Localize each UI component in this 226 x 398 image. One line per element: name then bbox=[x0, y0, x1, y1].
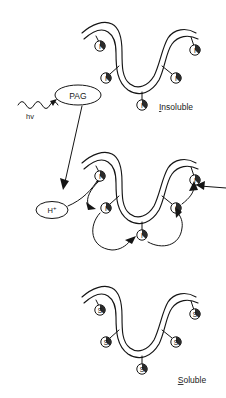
group-symbol: I bbox=[141, 102, 143, 109]
cascade-arrowhead-icon bbox=[86, 202, 96, 210]
photon-label: hv bbox=[26, 112, 34, 121]
group-symbol: I bbox=[105, 205, 107, 212]
group-symbol: I bbox=[194, 47, 196, 54]
group-symbol: I bbox=[175, 75, 177, 82]
soluble-group: S bbox=[101, 337, 111, 347]
pendant-stem bbox=[162, 330, 172, 338]
acid-to-chain-line bbox=[68, 178, 99, 206]
photon-arrow bbox=[18, 99, 58, 109]
pendant-stem bbox=[162, 196, 172, 204]
group-symbol: S bbox=[193, 311, 198, 318]
group-symbol: S bbox=[98, 307, 103, 314]
protecting-group-insoluble: I bbox=[137, 100, 147, 110]
protecting-group-reacting: I bbox=[101, 203, 111, 213]
protecting-group-insoluble: I bbox=[101, 73, 111, 83]
protecting-group-insoluble: I bbox=[171, 73, 181, 83]
polymer-backbone-inner bbox=[84, 30, 198, 93]
mechanism-diagram: I I I I I I bbox=[0, 0, 226, 398]
group-symbol: S bbox=[140, 366, 145, 373]
group-symbol: I bbox=[99, 43, 101, 50]
soluble-group: S bbox=[190, 309, 200, 319]
state-label-soluble: Soluble bbox=[178, 375, 207, 385]
state-label-rest: oluble bbox=[183, 375, 206, 385]
soluble-group: S bbox=[171, 337, 181, 347]
group-symbol: I bbox=[141, 232, 143, 239]
cascade-arrow-1 bbox=[87, 182, 98, 204]
group-symbol: I bbox=[105, 75, 107, 82]
polymer-backbone-inner bbox=[84, 294, 198, 357]
chain-soluble: S S S S S bbox=[82, 286, 200, 374]
group-symbol: S bbox=[104, 339, 109, 346]
group-symbol: S bbox=[174, 339, 179, 346]
catalytic-cascade-arrows bbox=[86, 181, 226, 250]
state-label-insoluble: Insoluble bbox=[159, 102, 193, 112]
figure-canvas: I I I I I I bbox=[0, 0, 226, 398]
pag-to-acid-arrowhead-icon bbox=[60, 178, 69, 190]
cascade-arrowhead-icon bbox=[125, 236, 136, 244]
soluble-group: S bbox=[137, 364, 147, 374]
pag-node: PAG bbox=[55, 85, 101, 105]
group-symbol: I bbox=[99, 173, 101, 180]
polymer-backbone-inner bbox=[84, 160, 198, 223]
pag-to-acid-line bbox=[65, 106, 82, 182]
pag-label: PAG bbox=[69, 91, 86, 101]
pag-to-acid-arrow bbox=[60, 106, 82, 190]
protecting-group-insoluble: I bbox=[190, 45, 200, 55]
protecting-group-reacting: I bbox=[95, 171, 105, 181]
soluble-group: S bbox=[95, 305, 105, 315]
protecting-group-reacting: I bbox=[137, 230, 147, 240]
acid-node: H+ bbox=[36, 202, 68, 219]
cascade-arrow-2 bbox=[93, 213, 130, 250]
pendant-stem bbox=[162, 66, 172, 74]
state-label-rest: nsoluble bbox=[161, 102, 193, 112]
protecting-group-insoluble: I bbox=[95, 41, 105, 51]
